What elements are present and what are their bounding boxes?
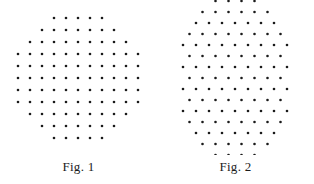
lattice-dot [77, 29, 80, 32]
lattice-dot [273, 132, 276, 135]
lattice-dot [65, 41, 68, 44]
lattice-dot [195, 22, 198, 25]
lattice-dot [41, 89, 44, 92]
lattice-dot [29, 65, 32, 68]
lattice-dot [201, 121, 204, 124]
lattice-dot [286, 110, 289, 113]
lattice-dot [214, 77, 217, 80]
lattice-dot [101, 53, 104, 56]
lattice-dot [214, 154, 217, 155]
lattice-dot [227, 33, 230, 36]
lattice-dot [65, 101, 68, 104]
lattice-dot [125, 113, 128, 116]
lattice-dot [195, 44, 198, 47]
lattice-dot [101, 29, 104, 32]
lattice-dot [137, 53, 140, 56]
lattice-dot [221, 132, 224, 135]
lattice-dot [65, 29, 68, 32]
lattice-dot [17, 77, 20, 80]
lattice-dot [286, 44, 289, 47]
lattice-dot [195, 110, 198, 113]
lattice-dot [208, 132, 211, 135]
lattice-dot [53, 125, 56, 128]
lattice-dot [221, 44, 224, 47]
lattice-dot [188, 99, 191, 102]
lattice-dot [273, 44, 276, 47]
dot-lattice-svg-2 [157, 0, 314, 155]
lattice-dot [101, 65, 104, 68]
lattice-dot [125, 53, 128, 56]
lattice-dot [41, 101, 44, 104]
lattice-dot [89, 77, 92, 80]
figure-caption-2: Fig. 2 [157, 159, 314, 174]
lattice-dot [65, 17, 68, 20]
lattice-dot [77, 101, 80, 104]
lattice-dot [65, 113, 68, 116]
lattice-dot [113, 65, 116, 68]
lattice-dot [101, 113, 104, 116]
lattice-dot [253, 0, 256, 2]
lattice-dot [273, 22, 276, 25]
lattice-dot [260, 132, 263, 135]
lattice-dot [41, 125, 44, 128]
lattice-dot [89, 29, 92, 32]
lattice-dot [137, 65, 140, 68]
lattice-dot [240, 55, 243, 58]
lattice-dot [201, 33, 204, 36]
lattice-dot [240, 11, 243, 14]
lattice-dot [247, 66, 250, 69]
lattice-dot [101, 137, 104, 140]
lattice-dot [41, 65, 44, 68]
lattice-dot [125, 89, 128, 92]
lattice-dot [234, 110, 237, 113]
lattice-dot [214, 33, 217, 36]
lattice-dot [221, 110, 224, 113]
lattice-dot [89, 53, 92, 56]
lattice-dot [77, 53, 80, 56]
lattice-dot [65, 77, 68, 80]
lattice-dot [273, 66, 276, 69]
lattice-dot [240, 77, 243, 80]
lattice-dot [221, 66, 224, 69]
lattice-dot [253, 11, 256, 14]
lattice-dot [253, 77, 256, 80]
lattice-dot [125, 41, 128, 44]
lattice-dot [240, 33, 243, 36]
lattice-dot [41, 77, 44, 80]
lattice-dot [286, 66, 289, 69]
lattice-dot [101, 89, 104, 92]
lattice-dot [53, 137, 56, 140]
lattice-dot [77, 77, 80, 80]
lattice-dot [29, 89, 32, 92]
lattice-dot [182, 110, 185, 113]
lattice-dot [53, 65, 56, 68]
lattice-dot [260, 88, 263, 91]
lattice-dot [234, 44, 237, 47]
lattice-dot [214, 55, 217, 58]
lattice-dot [188, 55, 191, 58]
lattice-dot [234, 88, 237, 91]
lattice-dot [113, 125, 116, 128]
lattice-dot [227, 77, 230, 80]
lattice-dot [266, 121, 269, 124]
lattice-dot [240, 143, 243, 146]
lattice-dot [240, 121, 243, 124]
lattice-dot [247, 22, 250, 25]
dot-lattice-hexagonal [157, 0, 314, 155]
dot-lattice-square [0, 0, 157, 155]
lattice-dot [279, 99, 282, 102]
lattice-dot [65, 53, 68, 56]
lattice-dot [113, 41, 116, 44]
lattice-dot [260, 110, 263, 113]
lattice-dot [201, 143, 204, 146]
lattice-dot [266, 143, 269, 146]
lattice-dot [41, 113, 44, 116]
lattice-dot [188, 77, 191, 80]
lattice-dot [77, 17, 80, 20]
lattice-dot [214, 11, 217, 14]
lattice-dot [182, 44, 185, 47]
lattice-dot [65, 65, 68, 68]
lattice-dot [113, 113, 116, 116]
lattice-dot [89, 125, 92, 128]
lattice-dot [53, 41, 56, 44]
